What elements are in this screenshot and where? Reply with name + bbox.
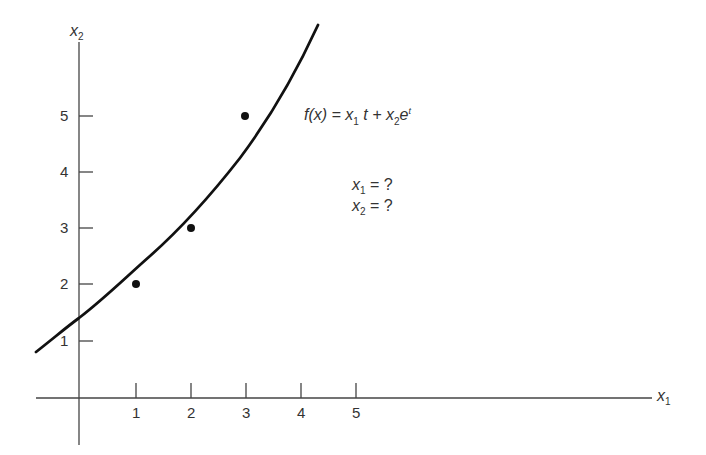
y-axis-label: x2: [70, 22, 84, 42]
x-tick-label: 2: [187, 404, 195, 421]
data-point: [132, 280, 140, 288]
data-point: [187, 224, 195, 232]
formula-annotation: f(x) = x1 t + x2et: [304, 106, 411, 127]
formula-var-b: x: [386, 106, 394, 123]
x-axis-label-sub: 1: [665, 396, 671, 407]
y-axis-label-base: x: [70, 22, 78, 39]
unknown-x2-var: x: [352, 197, 360, 214]
y-tick-label: 3: [60, 219, 68, 236]
unknown-x2-rest: = ?: [366, 197, 393, 214]
y-tick-label: 2: [60, 275, 68, 292]
fitted-curve: [36, 25, 318, 352]
x-tick-label: 4: [297, 404, 305, 421]
x-tick-label: 1: [132, 404, 140, 421]
unknown-x1-var: x: [352, 176, 360, 193]
y-tick-label: 1: [60, 332, 68, 349]
formula-t: t +: [363, 106, 386, 123]
formula-sup: t: [409, 106, 412, 116]
y-axis-label-sub: 2: [78, 31, 84, 42]
unknown-x2: x2 = ?: [352, 197, 393, 217]
formula-lhs: f(x) =: [304, 106, 345, 123]
x-tick-label: 3: [242, 404, 250, 421]
y-tick-label: 4: [60, 163, 68, 180]
x-ticks: [136, 383, 356, 398]
unknown-x1: x1 = ?: [352, 176, 393, 196]
formula-e: e: [400, 106, 409, 123]
data-point: [241, 112, 249, 120]
formula-sub-a: 1: [353, 116, 359, 127]
unknown-x1-rest: = ?: [366, 176, 393, 193]
x-tick-label: 5: [352, 404, 360, 421]
x-axis-label-base: x: [657, 387, 665, 404]
x-axis-label: x1: [657, 387, 671, 407]
y-tick-label: 5: [60, 107, 68, 124]
chart-canvas: [0, 0, 706, 455]
